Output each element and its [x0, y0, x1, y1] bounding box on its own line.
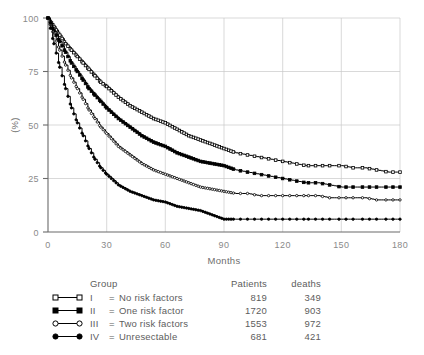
- y-tick-label-100: 100: [23, 14, 39, 24]
- legend-deaths-value: 972: [281, 317, 329, 330]
- censor-marker: [117, 145, 119, 147]
- censor-marker: [246, 192, 248, 194]
- censor-marker: [399, 171, 402, 174]
- censor-marker: [368, 197, 370, 199]
- censor-marker: [375, 199, 377, 201]
- censor-marker: [55, 52, 57, 54]
- censor-marker: [61, 75, 63, 77]
- censor-marker: [70, 62, 73, 65]
- censor-marker: [314, 218, 316, 220]
- censor-marker: [321, 164, 324, 167]
- x-tick-label-30: 30: [101, 240, 112, 250]
- legend-group-roman: III: [90, 317, 109, 330]
- censor-marker: [281, 218, 283, 220]
- censor-marker: [253, 172, 256, 175]
- censor-marker: [246, 218, 248, 220]
- censor-marker: [88, 109, 90, 111]
- legend-group-name: No risk factors: [119, 291, 223, 304]
- legend-row: I=No risk factors819349: [52, 291, 329, 304]
- censor-marker: [345, 218, 347, 220]
- x-tick-label-60: 60: [160, 240, 171, 250]
- legend-table: Group Patients deaths I=No risk factors8…: [52, 276, 329, 343]
- censor-marker: [321, 195, 323, 197]
- legend-equals-sign: =: [109, 330, 119, 343]
- censor-marker: [69, 103, 71, 105]
- censor-marker: [338, 218, 340, 220]
- censor-marker: [296, 218, 298, 220]
- censor-marker: [82, 79, 85, 82]
- y-tick-label-50: 50: [28, 121, 39, 131]
- legend-deaths-value: 421: [281, 330, 329, 343]
- censor-marker: [253, 155, 256, 158]
- legend-symbol-cell: [52, 317, 90, 330]
- legend-symbol-cell: [52, 304, 90, 317]
- censor-marker: [338, 197, 340, 199]
- x-tick-label-120: 120: [275, 240, 291, 250]
- censor-marker: [67, 95, 69, 97]
- censor-marker: [321, 182, 324, 185]
- censor-marker: [307, 164, 310, 167]
- censor-marker: [55, 40, 57, 42]
- censor-marker: [105, 173, 107, 175]
- legend-group-roman: II: [90, 304, 109, 317]
- censor-marker: [295, 180, 298, 183]
- censor-marker: [90, 152, 92, 154]
- censor-marker: [115, 182, 117, 184]
- legend-row: II=One risk factor1720903: [52, 304, 329, 317]
- censor-marker: [253, 194, 255, 196]
- legend-header-group: Group: [90, 276, 223, 291]
- censor-marker: [260, 194, 262, 196]
- censor-marker: [361, 197, 363, 199]
- censor-marker: [108, 175, 110, 177]
- censor-marker: [73, 81, 75, 83]
- censor-marker: [136, 159, 138, 161]
- x-axis-title: Months: [208, 255, 241, 266]
- legend-group-name: Two risk factors: [119, 317, 223, 330]
- censor-marker: [49, 27, 51, 29]
- censor-marker: [239, 192, 241, 194]
- censor-marker: [375, 218, 377, 220]
- censor-marker: [375, 169, 378, 172]
- y-axis-tick-labels: 100 75 50 25 0: [23, 14, 39, 238]
- chart-plot-area: 100 75 50 25 0 0 30 60 90 120 150 180 Mo…: [0, 0, 424, 268]
- censor-marker: [61, 45, 64, 48]
- censor-marker: [232, 168, 235, 171]
- censor-marker: [94, 158, 96, 160]
- censor-marker: [338, 164, 341, 167]
- censor-marker: [274, 176, 277, 179]
- censor-marker: [88, 147, 90, 149]
- censor-marker: [246, 171, 249, 174]
- censor-marker: [64, 64, 66, 66]
- legend-symbol-cell: [52, 330, 90, 343]
- y-tick-label-0: 0: [34, 228, 39, 238]
- censor-marker: [289, 194, 291, 196]
- censor-marker: [73, 113, 75, 115]
- censor-marker: [100, 167, 102, 169]
- censor-marker: [76, 122, 78, 124]
- censor-marker: [84, 102, 86, 104]
- censor-marker: [274, 194, 276, 196]
- censor-marker: [59, 66, 61, 68]
- censor-marker: [131, 155, 133, 157]
- legend-marker-open-circle: [52, 318, 86, 329]
- y-axis-title: (%): [9, 117, 20, 133]
- censor-marker: [260, 173, 263, 176]
- legend-deaths-value: 349: [281, 291, 329, 304]
- censor-marker: [108, 135, 110, 137]
- legend-patients-value: 681: [223, 330, 281, 343]
- censor-marker: [361, 167, 364, 170]
- censor-marker: [345, 186, 348, 189]
- legend-patients-value: 1720: [223, 304, 281, 317]
- censor-marker: [63, 61, 65, 63]
- censor-marker: [352, 218, 354, 220]
- censor-marker: [82, 98, 84, 100]
- legend-patients-value: 1553: [223, 317, 281, 330]
- censor-marker: [120, 147, 122, 149]
- censor-marker: [246, 154, 249, 157]
- censor-marker: [314, 194, 316, 196]
- censor-marker: [102, 169, 104, 171]
- censor-marker: [96, 161, 98, 163]
- x-tick-label-90: 90: [219, 240, 230, 250]
- censor-marker: [361, 218, 363, 220]
- legend-equals-sign: =: [109, 317, 119, 330]
